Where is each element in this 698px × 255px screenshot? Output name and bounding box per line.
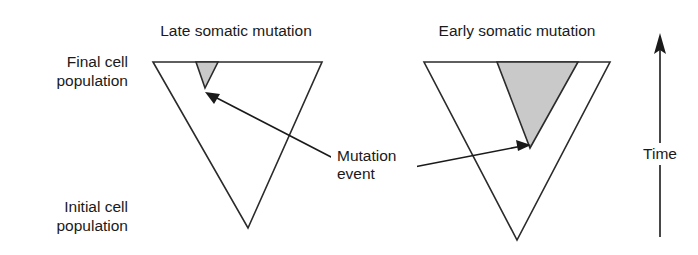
panel-late-somatic-mutation: Late somatic mutation: [153, 22, 322, 228]
final-population-line1: Final cell: [67, 53, 128, 70]
callout-line1: Mutation: [337, 147, 396, 164]
panel-title-late: Late somatic mutation: [160, 22, 312, 39]
figure-root: Late somatic mutation Early somatic muta…: [0, 0, 698, 255]
cell-population-triangle-late: [153, 62, 322, 228]
time-axis-label: Time: [643, 145, 677, 162]
final-population-line2: population: [56, 72, 128, 89]
panel-title-early: Early somatic mutation: [439, 22, 596, 39]
initial-population-line2: population: [56, 217, 128, 234]
side-label-initial-cell-population: Initial cell population: [56, 198, 128, 234]
side-label-final-cell-population: Final cell population: [56, 53, 128, 89]
initial-population-line1: Initial cell: [64, 198, 128, 215]
callout-line2: event: [337, 165, 376, 182]
somatic-mutation-diagram: Late somatic mutation Early somatic muta…: [0, 0, 698, 255]
callout-mutation-event: Mutation event: [331, 145, 417, 183]
panel-early-somatic-mutation: Early somatic mutation: [424, 22, 610, 240]
time-axis: Time: [637, 33, 684, 237]
